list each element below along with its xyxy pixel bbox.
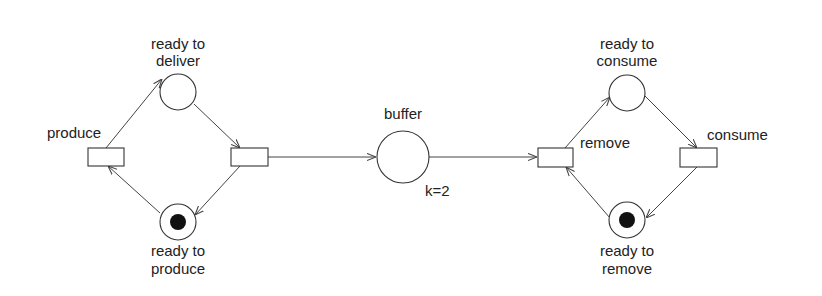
label-ready-to-deliver-line2: deliver — [156, 52, 200, 69]
label-ready-to-produce-line2: produce — [151, 260, 205, 277]
label-ready-to-consume-line2: consume — [597, 52, 658, 69]
label-ready-to-remove-line2: remove — [602, 260, 652, 277]
transition-deliver — [231, 148, 268, 166]
arc-deliver-to-ready-to-produce — [195, 166, 240, 215]
arc-consume-to-ready-to-remove — [646, 167, 697, 218]
label-ready-to-deliver-line1: ready to — [151, 35, 205, 52]
place-ready-to-consume — [609, 75, 645, 111]
label-ready-to-produce-line1: ready to — [151, 242, 205, 259]
label-ready-to-remove-line1: ready to — [600, 242, 654, 259]
arc-ready-to-consume-to-consume — [645, 96, 697, 148]
label-ready-to-consume-line1: ready to — [600, 35, 654, 52]
token-ready-to-produce — [170, 214, 186, 230]
petri-net-diagram: ready to deliver ready to produce buffer… — [0, 0, 822, 296]
label-produce: produce — [47, 124, 101, 141]
arc-ready-to-produce-to-produce — [108, 166, 160, 213]
transition-remove — [538, 148, 573, 167]
arc-produce-to-ready-to-deliver — [106, 79, 162, 148]
label-buffer: buffer — [384, 105, 422, 122]
arc-ready-to-deliver-to-deliver — [194, 104, 240, 148]
transition-produce — [88, 148, 124, 166]
label-buffer-capacity: k=2 — [425, 182, 450, 199]
place-buffer — [377, 131, 429, 183]
token-ready-to-remove — [619, 212, 635, 228]
place-ready-to-deliver — [160, 74, 196, 110]
label-remove: remove — [580, 134, 630, 151]
transition-consume — [680, 148, 717, 167]
arc-ready-to-remove-to-remove — [566, 167, 610, 218]
label-consume: consume — [707, 126, 768, 143]
